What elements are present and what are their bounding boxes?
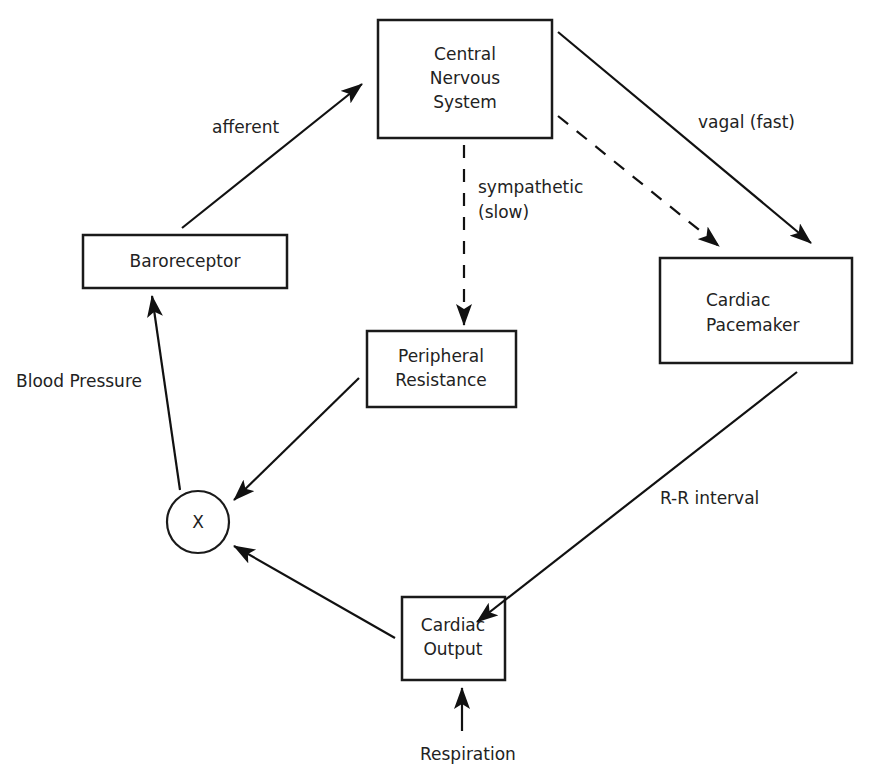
baroreflex-diagram: Central Nervous System Baroreceptor Card… xyxy=(0,0,869,776)
edge-afferent: afferent xyxy=(182,84,362,228)
node-cardiac-pacemaker: Cardiac Pacemaker xyxy=(660,258,852,363)
edge-rr-interval: R-R interval xyxy=(477,372,797,622)
arrow-icon xyxy=(182,84,362,228)
node-label: Cardiac xyxy=(421,615,485,635)
edge-output-to-x xyxy=(234,546,395,638)
node-central-nervous-system: Central Nervous System xyxy=(378,20,552,138)
arrow-icon xyxy=(152,296,180,490)
edge-blood-pressure: Blood Pressure xyxy=(16,296,180,490)
edge-peripheral-to-x xyxy=(234,378,359,500)
node-cardiac-output: Cardiac Output xyxy=(402,597,505,680)
edge-label: sympathetic xyxy=(478,177,583,197)
edge-respiration: Respiration xyxy=(420,688,516,764)
edge-label: Blood Pressure xyxy=(16,371,142,391)
node-label: Resistance xyxy=(395,370,487,390)
node-label: Baroreceptor xyxy=(130,251,241,271)
edge-vagal: vagal (fast) xyxy=(558,32,811,243)
edge-label: R-R interval xyxy=(660,488,759,508)
node-multiplier: X xyxy=(167,491,229,553)
edge-label: vagal (fast) xyxy=(698,112,795,132)
arrow-icon xyxy=(234,546,395,638)
edge-label: afferent xyxy=(212,117,279,137)
edge-label: Respiration xyxy=(420,744,516,764)
node-label: Pacemaker xyxy=(706,315,799,335)
multiplier-label: X xyxy=(192,512,204,532)
node-label: Cardiac xyxy=(706,290,770,310)
node-label: Nervous xyxy=(430,68,500,88)
edge-label: (slow) xyxy=(478,202,529,222)
arrow-icon xyxy=(234,378,359,500)
node-label: Central xyxy=(434,44,496,64)
arrow-icon xyxy=(558,32,811,243)
node-label: System xyxy=(433,92,496,112)
node-peripheral-resistance: Peripheral Resistance xyxy=(367,331,516,407)
node-baroreceptor: Baroreceptor xyxy=(83,235,287,288)
node-label: Output xyxy=(423,639,482,659)
node-label: Peripheral xyxy=(398,346,484,366)
edge-sympathetic: sympathetic (slow) xyxy=(464,145,583,325)
